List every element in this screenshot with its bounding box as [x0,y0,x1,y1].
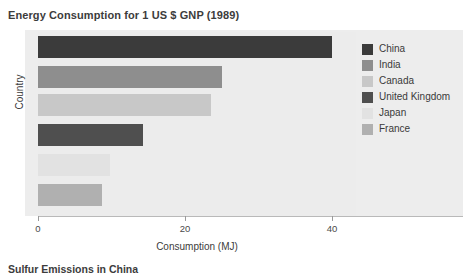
bar-series [38,32,356,216]
chart-title: Energy Consumption for 1 US $ GNP (1989) [8,9,239,21]
energy-consumption-figure: Energy Consumption for 1 US $ GNP (1989)… [0,0,472,280]
bar-china [38,36,332,58]
plot-region [38,32,356,216]
bar-slot [38,124,356,146]
legend-item-label: Japan [379,108,406,118]
legend-item: India [362,57,450,73]
x-axis-label: Consumption (MJ) [156,241,238,252]
bar-slot [38,36,356,58]
x-tick-label: 20 [180,223,191,234]
bar-united-kingdom [38,124,143,146]
legend-item: China [362,41,450,57]
legend-item: Canada [362,73,450,89]
legend-item-label: France [379,124,410,134]
x-tick-label: 0 [35,223,40,234]
chart-legend: ChinaIndiaCanadaUnited KingdomJapanFranc… [362,41,450,137]
legend-item-label: China [379,44,405,54]
legend-item: United Kingdom [362,89,450,105]
bar-india [38,66,222,88]
legend-item-label: India [379,60,401,70]
bar-slot [38,184,356,206]
x-tick [332,216,333,221]
legend-swatch-icon [362,60,373,71]
x-tick [185,216,186,221]
legend-item: France [362,121,450,137]
legend-swatch-icon [362,76,373,87]
legend-item-label: United Kingdom [379,92,450,102]
legend-swatch-icon [362,124,373,135]
x-tick [38,216,39,221]
bar-france [38,184,102,206]
bar-slot [38,154,356,176]
x-tick-label: 40 [327,223,338,234]
legend-item: Japan [362,105,450,121]
legend-swatch-icon [362,92,373,103]
legend-swatch-icon [362,108,373,119]
bar-canada [38,94,211,116]
x-axis-line [38,216,463,217]
y-axis-label: Country [14,74,25,109]
bar-japan [38,154,110,176]
bar-slot [38,94,356,116]
figure-caption: Sulfur Emissions in China [8,263,138,275]
bar-slot [38,66,356,88]
legend-swatch-icon [362,44,373,55]
legend-item-label: Canada [379,76,414,86]
